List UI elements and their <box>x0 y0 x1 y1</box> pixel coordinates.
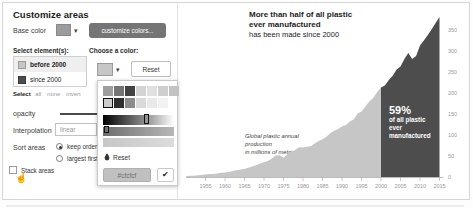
svg-text:1995: 1995 <box>355 183 367 189</box>
palette-swatch[interactable] <box>136 86 146 96</box>
hex-color-input[interactable] <box>103 168 151 182</box>
palette-swatch[interactable] <box>158 98 168 108</box>
svg-text:1970: 1970 <box>258 183 270 189</box>
palette-swatch[interactable] <box>125 98 135 108</box>
palette-row-2 <box>103 98 169 108</box>
svg-text:2010: 2010 <box>414 183 426 189</box>
svg-text:150: 150 <box>448 111 457 117</box>
palette-swatch[interactable] <box>103 98 113 108</box>
svg-text:1980: 1980 <box>297 183 309 189</box>
palette-swatch[interactable] <box>158 86 168 96</box>
svg-text:200: 200 <box>448 90 457 96</box>
svg-text:2005: 2005 <box>394 183 406 189</box>
svg-text:100: 100 <box>448 132 457 138</box>
color-picker-popup: Reset ✔ <box>97 80 178 186</box>
svg-text:300: 300 <box>448 48 457 54</box>
chart-callout: 59% of all plastic ever manufactured <box>389 104 445 140</box>
svg-text:0: 0 <box>448 174 451 180</box>
palette-swatch[interactable] <box>125 86 135 96</box>
apply-color-button[interactable]: ✔ <box>157 168 174 182</box>
callout-line2: ever manufactured <box>389 124 445 140</box>
reset-color-link[interactable]: Reset <box>104 153 130 161</box>
svg-text:350: 350 <box>448 27 457 33</box>
callout-percentage: 59% <box>389 104 445 116</box>
tone-gradient-strip[interactable] <box>103 127 174 136</box>
tint-gradient-strip[interactable] <box>103 138 174 147</box>
svg-text:1985: 1985 <box>316 183 328 189</box>
check-icon: ✔ <box>162 170 169 179</box>
gradient-marker[interactable] <box>144 114 149 124</box>
gradient-marker[interactable] <box>104 126 109 133</box>
palette-swatch[interactable] <box>169 86 179 96</box>
svg-text:1975: 1975 <box>277 183 289 189</box>
svg-text:250: 250 <box>448 69 457 75</box>
palette-swatch[interactable] <box>114 98 124 108</box>
palette-row-1 <box>103 86 180 96</box>
droplet-icon <box>104 153 110 161</box>
svg-text:1960: 1960 <box>219 183 231 189</box>
svg-text:1955: 1955 <box>199 183 211 189</box>
svg-text:2000: 2000 <box>375 183 387 189</box>
svg-text:2015: 2015 <box>433 183 445 189</box>
shade-gradient-strip[interactable] <box>103 115 174 125</box>
svg-text:1965: 1965 <box>238 183 250 189</box>
callout-line1: of all plastic <box>389 116 445 124</box>
palette-swatch[interactable] <box>114 86 124 96</box>
palette-swatch[interactable] <box>103 86 113 96</box>
svg-text:50: 50 <box>448 153 454 159</box>
app-window: Customize areas Base color ▾ customize c… <box>0 0 473 209</box>
reset-link-label: Reset <box>113 154 130 161</box>
palette-swatch[interactable] <box>147 86 157 96</box>
palette-swatch[interactable] <box>147 98 157 108</box>
palette-swatch[interactable] <box>136 98 146 108</box>
svg-text:1990: 1990 <box>336 183 348 189</box>
